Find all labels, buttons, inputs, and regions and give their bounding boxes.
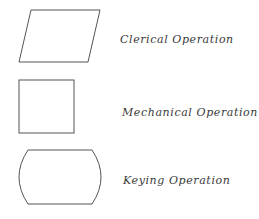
mechanical-operation-symbol: [19, 80, 74, 133]
mechanical-operation-label: Mechanical Operation: [122, 106, 258, 119]
keying-operation-label: Keying Operation: [123, 174, 230, 187]
clerical-operation-symbol: [19, 10, 100, 62]
clerical-operation-label: Clerical Operation: [120, 33, 234, 46]
keying-operation-symbol: [19, 150, 101, 204]
